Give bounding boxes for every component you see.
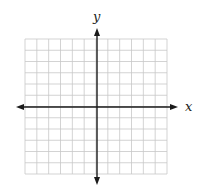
x-axis-label: x <box>185 99 193 114</box>
axes <box>16 28 178 185</box>
y-axis-bottom-arrow-icon <box>94 177 100 185</box>
y-axis-top-arrow-icon <box>94 28 100 36</box>
x-axis-right-arrow-icon <box>170 104 178 110</box>
x-axis-left-arrow-icon <box>16 104 24 110</box>
coordinate-plane: y x <box>0 0 211 188</box>
y-axis-label: y <box>92 9 101 24</box>
